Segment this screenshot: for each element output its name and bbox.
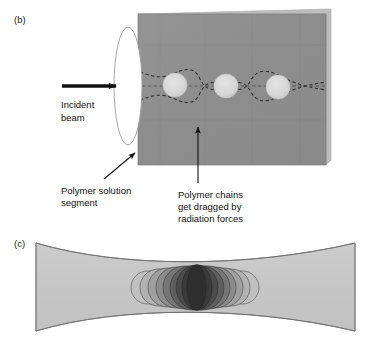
particle — [266, 75, 290, 99]
polymer-chains-caption-line1: Polymer chains — [178, 189, 243, 200]
polymer-solution-pointer-arrow — [104, 153, 135, 179]
figure-svg: (b) — [0, 0, 368, 341]
particle — [214, 74, 238, 98]
beam-cross-section-ellipse — [114, 27, 142, 145]
panel-c-label: (c) — [14, 238, 25, 249]
polymer-chains-caption-line2: get dragged by — [178, 201, 242, 212]
polymer-solution-caption-line1: Polymer solution — [61, 185, 131, 196]
polymer-chains-caption-line3: radiation forces — [178, 213, 243, 224]
figure-container: (b) — [0, 0, 368, 341]
panel-c: (c) — [14, 238, 355, 331]
incident-beam-label-line2: beam — [61, 112, 85, 123]
incident-beam-label-line1: Incident — [61, 99, 95, 110]
focus-contours — [131, 265, 259, 310]
particle — [163, 73, 187, 97]
contour-core — [187, 265, 206, 310]
panel-b-label: (b) — [14, 14, 26, 25]
panel-b: (b) — [14, 9, 331, 224]
polymer-solution-caption-line2: segment — [61, 197, 98, 208]
